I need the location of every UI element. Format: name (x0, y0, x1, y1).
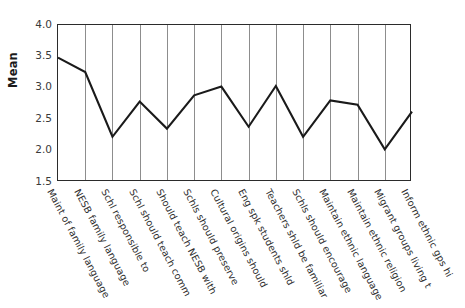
x-tick-label: Inform ethnic gps hi (399, 187, 455, 279)
x-axis-tick-labels: Maint of family languageNESB family lang… (0, 0, 465, 308)
x-tick-label: Schl responsible to (100, 187, 153, 274)
chart-figure: Mean 4.03.53.02.52.01.5 Maint of family … (0, 0, 465, 308)
